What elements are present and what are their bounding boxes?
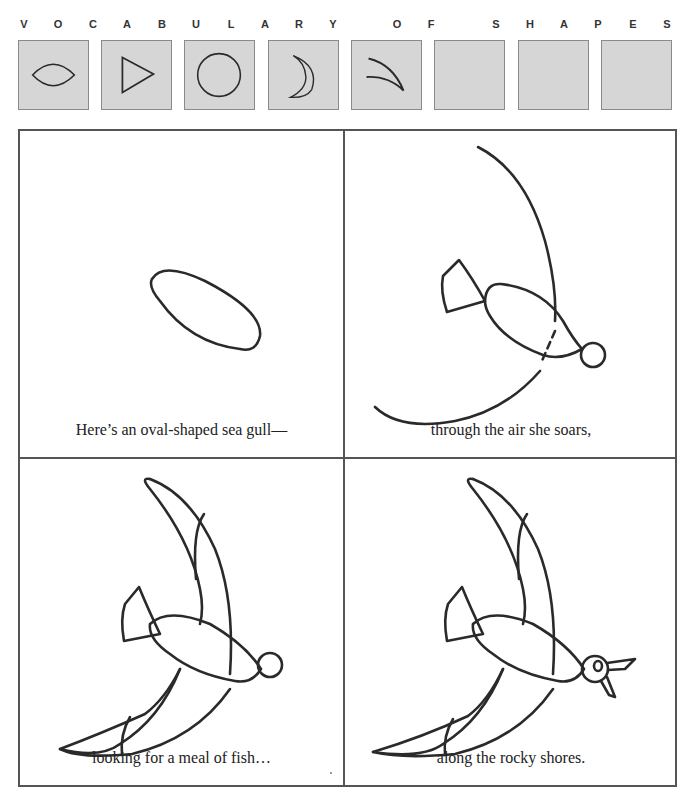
panel-caption: through the air she soars, — [345, 421, 677, 439]
heading-letter: C — [89, 18, 97, 30]
heading-letter: A — [261, 18, 269, 30]
heading-letter: V — [20, 18, 27, 30]
panel-step-1: Here’s an oval-shaped sea gull— — [20, 131, 343, 457]
vocab-box-triangle — [101, 40, 172, 110]
heading-letter: O — [54, 18, 63, 30]
oval-body-drawing — [20, 131, 343, 457]
vocab-box-empty — [518, 40, 589, 110]
vocab-box-thin-crescent — [351, 40, 422, 110]
vocab-box-oval — [18, 40, 89, 110]
vocab-box-empty — [434, 40, 505, 110]
panel-caption: looking for a meal of fish… — [20, 749, 343, 767]
triangle-icon — [102, 41, 171, 109]
panel-step-4: along the rocky shores. — [345, 459, 677, 787]
panel-step-3: looking for a meal of fish… — [20, 459, 343, 787]
heading-letter: P — [594, 18, 601, 30]
heading-letter: S — [492, 18, 499, 30]
circle-icon — [185, 41, 254, 109]
finished-seagull-drawing — [345, 459, 677, 787]
vocabulary-heading: VOCABULARYOFSHAPES — [0, 18, 691, 34]
heading-letter: F — [428, 18, 435, 30]
oval-icon — [19, 41, 88, 109]
heading-letter: S — [663, 18, 670, 30]
heading-letter: A — [123, 18, 131, 30]
heading-letter: U — [192, 18, 200, 30]
heading-letter: R — [295, 18, 303, 30]
vocab-box-circle — [184, 40, 255, 110]
heading-letter: B — [158, 18, 166, 30]
gull-with-wing-arcs-drawing — [345, 131, 677, 457]
panel-caption: Here’s an oval-shaped sea gull— — [20, 421, 343, 439]
heading-letter: H — [526, 18, 534, 30]
panel-step-2: through the air she soars, — [345, 131, 677, 457]
heading-letter: Y — [329, 18, 336, 30]
speck — [330, 772, 332, 774]
heading-letter: O — [393, 18, 402, 30]
heading-letter: L — [228, 18, 235, 30]
heading-letter: A — [560, 18, 568, 30]
thin-crescent-icon — [352, 41, 421, 109]
crescent-icon — [269, 41, 338, 109]
drawing-steps-grid: Here’s an oval-shaped sea gull— through … — [18, 129, 677, 787]
heading-letter: E — [629, 18, 636, 30]
gull-with-wings-drawing — [20, 459, 343, 787]
vocab-box-empty — [601, 40, 672, 110]
vocab-box-crescent — [268, 40, 339, 110]
panel-caption: along the rocky shores. — [345, 749, 677, 767]
